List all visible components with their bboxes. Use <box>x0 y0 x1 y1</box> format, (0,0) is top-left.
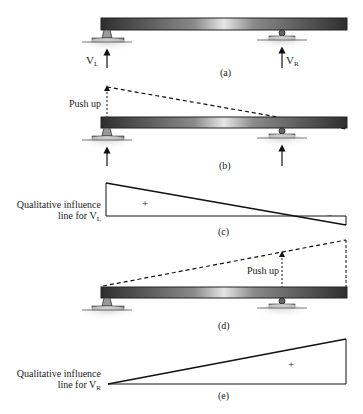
influence-line-vr <box>108 339 346 384</box>
panel-b <box>82 87 347 166</box>
caption-e: (e) <box>218 390 229 401</box>
roller-support-right <box>257 30 307 52</box>
push-up-label-d: Push up <box>247 265 279 276</box>
beam <box>101 117 347 128</box>
influence-label-vl-line1: Qualitative influence <box>0 199 101 210</box>
caption-a: (a) <box>220 67 231 78</box>
deflected-shape <box>103 240 346 286</box>
panel-a <box>82 18 347 68</box>
panel-d <box>82 240 347 322</box>
caption-b: (b) <box>219 160 231 171</box>
influence-label-vr-line2: line for VR <box>0 379 101 394</box>
caption-d: (d) <box>218 320 230 331</box>
negative-sign-c: − <box>327 210 332 221</box>
reaction-label-vr: VR <box>286 55 299 70</box>
positive-sign-c: + <box>142 198 148 209</box>
roller-support-right <box>257 298 307 320</box>
influence-label-vr-line1: Qualitative influence <box>0 368 101 379</box>
roller-support-right <box>257 128 307 150</box>
push-up-label-b: Push up <box>69 98 101 109</box>
caption-c: (c) <box>218 226 229 237</box>
pin-support-left <box>82 128 132 152</box>
beam <box>101 18 347 30</box>
reaction-label-vl: VL <box>86 55 98 70</box>
beam <box>101 287 347 298</box>
pin-support-left <box>82 298 132 322</box>
positive-sign-e: + <box>288 359 294 370</box>
influence-label-vl-line2: line for VL <box>0 210 101 225</box>
pin-support-left <box>82 30 132 54</box>
